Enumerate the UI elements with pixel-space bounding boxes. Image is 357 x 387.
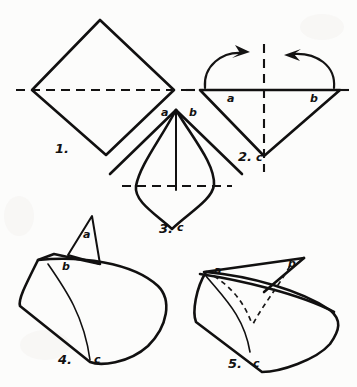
figure-2-label-a: a <box>227 93 234 104</box>
figure-1-outline <box>32 20 174 155</box>
figure-5-crease-right <box>252 266 290 326</box>
figure-4-label-c: c <box>94 354 101 365</box>
figure-5-label-a: a <box>214 265 221 276</box>
fold-arrow-left-head <box>232 45 250 58</box>
fold-arrow-left-curve <box>205 53 243 88</box>
figure-1-diamond <box>16 20 196 155</box>
figure-3-kite <box>110 110 242 229</box>
figure-4-outline <box>20 259 167 364</box>
step-number-1: 1. <box>55 142 69 155</box>
fold-arrow-right <box>284 49 334 88</box>
figure-3-label-b: b <box>189 107 197 118</box>
figure-5-label-b: b <box>288 258 296 269</box>
figure-4-folded-form <box>20 216 167 364</box>
step-number-3: 3. <box>159 222 173 235</box>
figure-4-label-b: b <box>62 261 70 272</box>
figure-2-label-c: c <box>256 152 263 163</box>
fold-arrow-left <box>205 45 250 88</box>
figure-4-label-a: a <box>83 229 90 240</box>
step-number-2: 2. <box>238 150 252 163</box>
fold-arrow-right-head <box>284 49 301 61</box>
origami-diagram-canvas <box>0 0 357 387</box>
step-number-4: 4. <box>58 353 72 366</box>
step-number-5: 5. <box>228 357 242 370</box>
figure-2-triangle <box>186 44 354 172</box>
fold-arrow-right-curve <box>292 54 334 88</box>
origami-instruction-sheet: 1. 2. 3. 4. 5. a b c a b c a b c a b c <box>0 0 357 387</box>
figure-2-outline <box>200 90 340 156</box>
figure-2-label-b: b <box>310 93 318 104</box>
figure-5-label-c: c <box>253 358 260 369</box>
figure-3-label-a: a <box>161 107 168 118</box>
figure-3-outline <box>136 110 214 229</box>
figure-3-label-c: c <box>177 222 184 233</box>
